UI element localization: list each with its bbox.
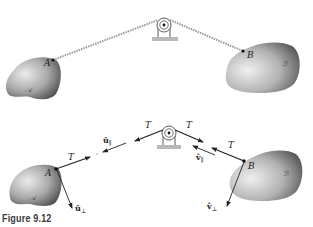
- tension-arrow-pulley-left: [135, 130, 163, 141]
- figure-caption: Figure 9.12: [2, 213, 52, 224]
- tension-label-2: T: [186, 120, 193, 130]
- pulley-fbd-icon: [157, 126, 181, 149]
- rope-segment-right: [170, 20, 243, 51]
- rope-segment-left: [53, 20, 158, 60]
- pulley-icon: [152, 18, 178, 41]
- u-perp-label: û⊥: [75, 203, 86, 214]
- point-a-fbd-label: A: [44, 168, 52, 178]
- figure-canvas: A B 𝒜 ℬ T T û∥ v̂∥ T: [0, 0, 313, 227]
- point-a-label: A: [43, 58, 51, 68]
- point-b-dot: [241, 49, 244, 52]
- point-b-label: B: [246, 50, 254, 60]
- point-b-fbd-dot: [242, 159, 245, 162]
- tension-label-4: T: [228, 140, 235, 150]
- body-b-fbd-label: ℬ: [283, 170, 289, 178]
- bottom-panel: T T û∥ v̂∥ T T û⊥ v̂⊥ A B 𝒜 ℬ: [9, 120, 302, 214]
- rigid-body-a: [6, 57, 61, 99]
- point-a-fbd-dot: [54, 167, 57, 170]
- v-perp-label: v̂⊥: [206, 201, 217, 212]
- point-a-dot: [51, 58, 54, 61]
- v-parallel-label: v̂∥: [195, 152, 204, 163]
- tension-label-3: T: [68, 152, 75, 162]
- tension-label-1: T: [145, 120, 152, 130]
- rigid-body-b-fbd: [230, 150, 303, 201]
- top-panel: A B 𝒜 ℬ: [6, 18, 300, 99]
- point-b-fbd-label: B: [247, 161, 255, 171]
- rigid-body-b: [226, 42, 300, 93]
- tension-arrow-pulley-right: [175, 130, 203, 142]
- u-parallel-label: û∥: [103, 135, 112, 146]
- body-b-label: ℬ: [282, 60, 288, 68]
